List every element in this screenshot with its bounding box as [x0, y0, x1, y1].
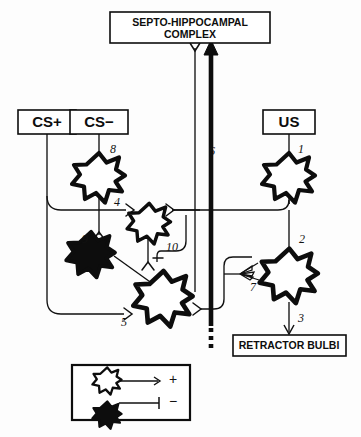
cs-plus-label: CS+: [32, 113, 62, 130]
neuron-inhibitory-9[interactable]: [66, 232, 115, 278]
circuit-diagram: SEPTO-HIPPOCAMPAL COMPLEX CS+ CS− US RET…: [0, 0, 361, 437]
descending-trunk-group: [204, 40, 218, 352]
box-retractor-bulbi[interactable]: RETRACTOR BULBI: [233, 335, 346, 356]
neuron-motor-2[interactable]: [260, 249, 318, 303]
cs-minus-label: CS−: [84, 113, 114, 130]
box-cs-minus[interactable]: CS−: [70, 110, 128, 134]
label-pathway-2: 2: [299, 232, 305, 246]
legend-excitatory-sign: +: [169, 371, 177, 387]
label-pathway-10: 10: [166, 240, 178, 254]
path-us-branch-left: [172, 200, 289, 210]
label-pathway-6: 6: [209, 144, 215, 158]
box-us[interactable]: US: [263, 110, 315, 134]
neuron-us[interactable]: [262, 153, 315, 203]
us-label: US: [279, 113, 300, 130]
septo-hippocampal-line2: COMPLEX: [164, 28, 216, 40]
legend-inhibitory-sign: −: [169, 393, 177, 409]
box-septo-hippocampal[interactable]: SEPTO-HIPPOCAMPAL COMPLEX: [110, 12, 270, 43]
figure-canvas: SEPTO-HIPPOCAMPAL COMPLEX CS+ CS− US RET…: [0, 0, 361, 437]
path-5star-to-7: [201, 257, 252, 309]
synapse-terminal-4-out: [166, 204, 174, 216]
path-9-inhibitory-out: [114, 256, 153, 284]
synapse-terminal-10: [142, 262, 154, 270]
legend-box: + −: [72, 365, 190, 429]
septo-hippocampal-line1: SEPTO-HIPPOCAMPAL: [132, 16, 248, 28]
label-pathway-9: 9: [82, 232, 88, 246]
synapse-terminal-5-out: [193, 303, 201, 315]
label-pathway-8: 8: [110, 142, 116, 156]
label-pathway-5: 5: [121, 315, 127, 329]
synapse-fan-7: [224, 263, 259, 280]
label-pathway-7: 7: [250, 280, 257, 294]
box-cs-plus[interactable]: CS+: [18, 110, 76, 134]
neuron-output-5[interactable]: [133, 271, 192, 326]
retractor-bulbi-label: RETRACTOR BULBI: [239, 339, 340, 351]
label-pathway-1: 1: [298, 142, 304, 156]
label-pathway-4: 4: [114, 195, 120, 209]
label-pathway-3: 3: [297, 311, 304, 325]
terminal-y-ascending: [190, 43, 200, 51]
